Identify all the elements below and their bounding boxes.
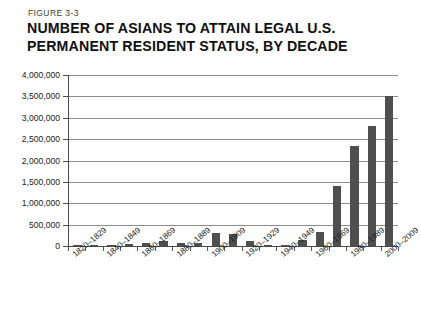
gridline bbox=[68, 118, 398, 119]
y-axis-tick-label: 1,500,000 bbox=[0, 177, 60, 187]
y-axis-tick-label: 2,000,000 bbox=[0, 156, 60, 166]
x-axis-tick bbox=[311, 247, 312, 251]
y-axis-tick-label: 3,500,000 bbox=[0, 91, 60, 101]
y-axis-tick-label: 1,000,000 bbox=[0, 198, 60, 208]
y-axis-tick-label: 4,000,000 bbox=[0, 70, 60, 80]
gridline bbox=[68, 96, 398, 97]
x-axis-tick bbox=[68, 247, 69, 251]
y-axis-tick-label: 0 bbox=[0, 241, 60, 251]
gridline bbox=[68, 182, 398, 183]
gridline bbox=[68, 225, 398, 226]
x-axis-tick bbox=[242, 247, 243, 251]
y-axis-tick-label: 2,500,000 bbox=[0, 134, 60, 144]
x-axis-tick bbox=[172, 247, 173, 251]
x-axis-tick-label: 1940–1949 bbox=[279, 226, 316, 259]
gridline bbox=[68, 161, 398, 162]
gridline bbox=[68, 75, 398, 76]
gridline bbox=[68, 203, 398, 204]
y-axis-tick-label: 3,000,000 bbox=[0, 113, 60, 123]
x-axis-tick bbox=[381, 247, 382, 251]
x-axis-tick bbox=[346, 247, 347, 251]
x-axis-tick-label: 1840–1849 bbox=[105, 226, 142, 259]
bar bbox=[368, 126, 376, 246]
bar bbox=[350, 146, 358, 246]
x-axis-tick bbox=[276, 247, 277, 251]
bar bbox=[385, 96, 393, 246]
gridline bbox=[68, 139, 398, 140]
x-axis-tick bbox=[103, 247, 104, 251]
x-axis-tick bbox=[207, 247, 208, 251]
x-axis-tick bbox=[137, 247, 138, 251]
x-axis-tick-label: 1820–1829 bbox=[71, 226, 108, 259]
y-axis-line bbox=[68, 75, 69, 247]
y-axis-tick-label: 500,000 bbox=[0, 220, 60, 230]
